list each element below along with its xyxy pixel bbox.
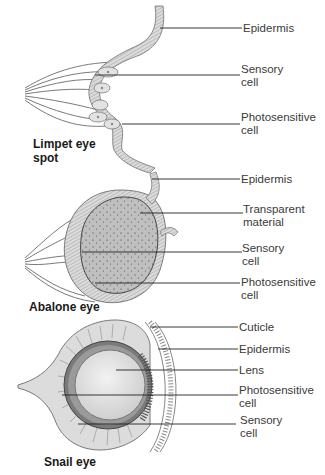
transparent-material — [81, 197, 158, 293]
title-limpet-eye-spot: Limpet eye spot — [33, 137, 96, 165]
label-snail-cuticle: Cuticle — [239, 321, 274, 334]
label-limpet-photosensitive-cell: Photosensitive cell — [241, 111, 316, 137]
label-snail-sensory-cell: Sensory cell — [240, 414, 282, 440]
label-snail-lens: Lens — [239, 364, 264, 377]
label-abalone-sensory-cell: Sensory cell — [242, 242, 284, 268]
label-limpet-sensory-cell: Sensory cell — [241, 63, 283, 89]
label-snail-photosensitive-cell: Photosensitive cell — [239, 384, 314, 410]
title-abalone-eye: Abalone eye — [29, 300, 100, 314]
label-snail-epidermis: Epidermis — [239, 343, 290, 356]
title-snail-eye: Snail eye — [44, 455, 96, 469]
label-limpet-epidermis: Epidermis — [243, 22, 294, 35]
snail-eye-illustration — [18, 320, 176, 452]
label-abalone-transparent-material: Transparent material — [243, 203, 305, 229]
limpet-leader-lines — [95, 28, 242, 124]
lens — [75, 350, 145, 420]
label-abalone-photosensitive-cell: Photosensitive cell — [241, 276, 316, 302]
label-abalone-epidermis: Epidermis — [241, 173, 292, 186]
